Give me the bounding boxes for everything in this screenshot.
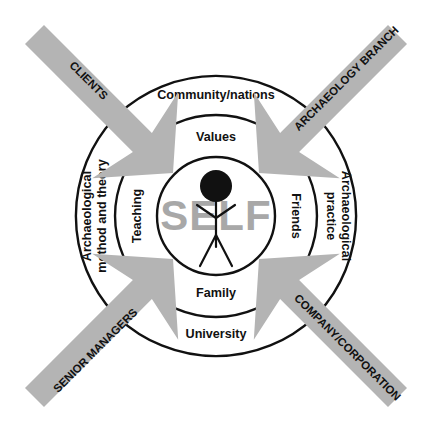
arrow-senior-managers-shape xyxy=(25,254,178,407)
sector-label-archpractice-line2: practice xyxy=(324,192,338,240)
arrow-label-archaeology-branch: ARCHAEOLOGY BRANCH xyxy=(292,24,401,133)
self-influence-diagram: SELF Community/nations Values Family Uni… xyxy=(0,0,432,423)
sector-label-friends: Friends xyxy=(289,193,303,239)
arrow-clients: CLIENTS xyxy=(25,25,178,178)
diagram-root: SELF Community/nations Values Family Uni… xyxy=(0,0,432,423)
sector-label-university: University xyxy=(186,327,247,341)
sector-label-archaeological-practice: Archaeological practice xyxy=(324,171,353,261)
sector-label-archpractice-line1: Archaeological xyxy=(339,171,353,261)
arrow-senior-managers: SENIOR MANAGERS xyxy=(25,254,178,407)
arrow-label-company-corporation: COMPANY/CORPORATION xyxy=(292,292,403,403)
sector-label-teaching: Teaching xyxy=(130,189,144,243)
sector-label-archmethod-line1: Archaeological xyxy=(80,171,94,261)
sector-label-values: Values xyxy=(196,130,236,144)
arrow-archaeology-branch: ARCHAEOLOGY BRANCH xyxy=(254,24,407,178)
sector-label-family: Family xyxy=(196,286,236,300)
arrow-company-corporation: COMPANY/CORPORATION xyxy=(254,254,407,407)
